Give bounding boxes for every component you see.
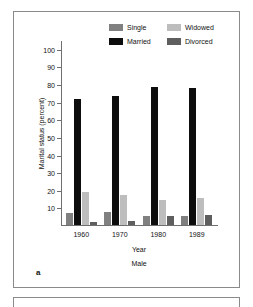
y-axis-title: Marital status (percent) <box>36 41 48 226</box>
y-axis-tick-label: 10 <box>47 205 55 212</box>
bar-married-1989 <box>189 88 196 225</box>
bar-widowed-1989 <box>197 198 204 225</box>
x-axis-tick-label: 1989 <box>180 231 213 238</box>
legend-item-widowed: Widowed <box>167 24 237 31</box>
legend-swatch-single <box>109 24 123 31</box>
bars-layer <box>62 41 216 225</box>
panel-letter: a <box>36 268 40 277</box>
y-axis-tick-label: 30 <box>47 170 55 177</box>
x-axis-tick-label: 1960 <box>65 231 98 238</box>
figure-panel-b-frame <box>13 297 240 307</box>
y-axis-tick-label: 50 <box>47 134 55 141</box>
subject-label: Male <box>61 260 217 267</box>
y-axis-tick-label: 40 <box>47 152 55 159</box>
bar-single-1960 <box>66 213 73 225</box>
bar-widowed-1970 <box>120 195 127 225</box>
bar-married-1980 <box>151 87 158 225</box>
bar-married-1960 <box>74 99 81 225</box>
bar-divorced-1960 <box>90 222 97 225</box>
bar-group-1960 <box>66 41 97 225</box>
y-axis-tick-label: 80 <box>47 82 55 89</box>
y-axis-tick-label: 90 <box>47 64 55 71</box>
y-axis-tick-label: 60 <box>47 117 55 124</box>
bar-married-1970 <box>112 96 119 225</box>
x-axis-tick-label: 1970 <box>103 231 136 238</box>
y-axis-tick-label: 20 <box>47 187 55 194</box>
bar-single-1989 <box>181 216 188 225</box>
legend-label-single: Single <box>127 24 146 31</box>
x-axis-title: Year <box>61 246 217 253</box>
figure-panel-a: Single Widowed Married Divorced Marital … <box>13 11 240 288</box>
legend-item-single: Single <box>109 24 167 31</box>
plot-area: 102030405060708090100 1960197019801989 <box>61 41 216 226</box>
bar-group-1970 <box>104 41 135 225</box>
legend-swatch-widowed <box>167 24 181 31</box>
bar-single-1980 <box>143 216 150 225</box>
y-axis-tick-label: 70 <box>47 99 55 106</box>
x-axis-line <box>61 225 218 226</box>
bar-single-1970 <box>104 212 111 225</box>
bar-group-1989 <box>181 41 212 225</box>
bar-divorced-1970 <box>128 221 135 225</box>
legend-label-widowed: Widowed <box>185 24 214 31</box>
bar-divorced-1980 <box>167 216 174 225</box>
bar-widowed-1980 <box>159 200 166 225</box>
bar-widowed-1960 <box>82 192 89 225</box>
bar-divorced-1989 <box>205 215 212 225</box>
x-axis-tick-labels: 1960197019801989 <box>62 231 216 238</box>
bar-group-1980 <box>143 41 174 225</box>
y-axis-tick-label: 100 <box>43 46 55 53</box>
y-axis-title-text: Marital status (percent) <box>39 98 46 170</box>
x-axis-tick-label: 1980 <box>142 231 175 238</box>
